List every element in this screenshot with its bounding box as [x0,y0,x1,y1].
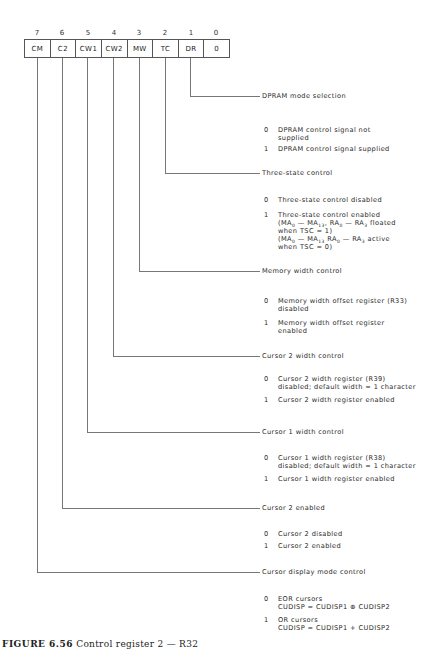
option-text: when TSC = 0) [278,243,332,251]
bit-number-1: 1 [178,29,204,37]
option-value: 0 [264,454,269,462]
bit-number-7: 7 [24,29,50,37]
option-value: 1 [264,145,269,153]
register-field-cw2: CW2 [102,40,128,57]
option-text: EOR cursors [278,595,323,603]
option-text: OR cursors [278,616,318,624]
option-value: 1 [264,319,269,327]
section-title-c2: Cursor 2 enabled [262,504,325,512]
option-text: Three-state control disabled [278,196,382,204]
option-text: disabled; default width = 1 character [278,462,416,470]
option-text: Cursor 2 width register enabled [278,396,395,404]
connector-cw2-vertical [113,58,114,356]
register-field-cw1: CW1 [76,40,102,57]
option-text: disabled [278,305,309,313]
section-title-cw2: Cursor 2 width control [262,352,344,360]
register-field-0: 0 [204,40,229,57]
connector-cw1-vertical [87,58,88,432]
option-text: CUDISP = CUDISP1 + CUDISP2 [278,624,390,632]
connector-dr-vertical [190,58,191,96]
connector-tc-vertical [165,58,166,173]
connector-cw1-horizontal [87,432,260,433]
option-text: Cursor 2 enabled [278,542,341,550]
option-value: 1 [264,396,269,404]
register-field-dr: DR [179,40,205,57]
connector-tc-horizontal [165,173,260,174]
option-value: 0 [264,595,269,603]
connector-mw-horizontal [139,271,260,272]
option-value: 1 [264,542,269,550]
bit-number-3: 3 [126,29,152,37]
bit-number-0: 0 [203,29,229,37]
register-field-mw: MW [128,40,154,57]
option-text: DPRAM control signal not [278,126,371,134]
connector-cm-horizontal [37,572,260,573]
bit-number-5: 5 [75,29,101,37]
option-value: 1 [264,211,269,219]
option-text: DPRAM control signal supplied [278,145,390,153]
connector-cw2-horizontal [113,356,260,357]
option-text: enabled [278,327,307,335]
figure-caption-text: Control register 2 — R32 [76,639,198,649]
option-text: Three-state control enabled [278,211,380,219]
register-field-cm: CM [25,40,51,57]
figure-number: FIGURE 6.56 [2,639,73,649]
option-value: 1 [264,616,269,624]
connector-cm-vertical [37,58,38,572]
option-value: 0 [264,196,269,204]
option-text: Cursor 2 disabled [278,530,343,538]
register-field-tc: TC [153,40,179,57]
option-value: 0 [264,126,269,134]
section-title-tc: Three-state control [262,169,333,177]
section-title-mw: Memory width control [262,267,342,275]
connector-mw-vertical [139,58,140,271]
option-value: 0 [264,530,269,538]
option-text: Cursor 2 width register (R39) [278,375,386,383]
option-text: Cursor 1 width register (R38) [278,454,386,462]
option-text: disabled; default width = 1 character [278,383,416,391]
option-text: Cursor 1 width register enabled [278,475,395,483]
option-value: 0 [264,297,269,305]
connector-dr-horizontal [190,96,260,97]
option-text: CUDISP = CUDISP1 ⊕ CUDISP2 [278,603,390,611]
bit-number-2: 2 [152,29,178,37]
bit-number-4: 4 [101,29,127,37]
connector-c2-vertical [62,58,63,508]
option-text: when TSC = 1) [278,227,332,235]
option-text: Memory width offset register [278,319,385,327]
option-text: Memory width offset register (R33) [278,297,407,305]
option-text: supplied [278,134,309,142]
section-title-cw1: Cursor 1 width control [262,428,344,436]
section-title-cm: Cursor display mode control [262,568,366,576]
section-title-dr: DPRAM mode selection [262,92,346,100]
connector-c2-horizontal [62,508,260,509]
figure-caption: FIGURE 6.56 Control register 2 — R32 [2,639,198,649]
option-value: 0 [264,375,269,383]
register-field-c2: C2 [51,40,77,57]
register-box: CM C2 CW1 CW2 MW TC DR 0 [24,39,230,58]
option-value: 1 [264,475,269,483]
bit-number-6: 6 [49,29,75,37]
